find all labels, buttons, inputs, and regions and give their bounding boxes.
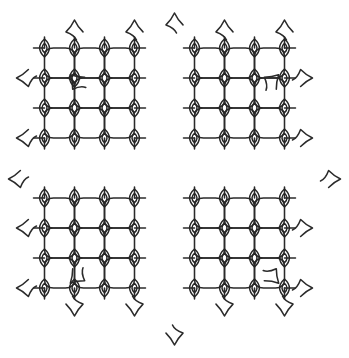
kolam-figure-root: [0, 0, 349, 358]
canvas-background: [0, 0, 349, 358]
kolam-drawing: [0, 0, 349, 358]
